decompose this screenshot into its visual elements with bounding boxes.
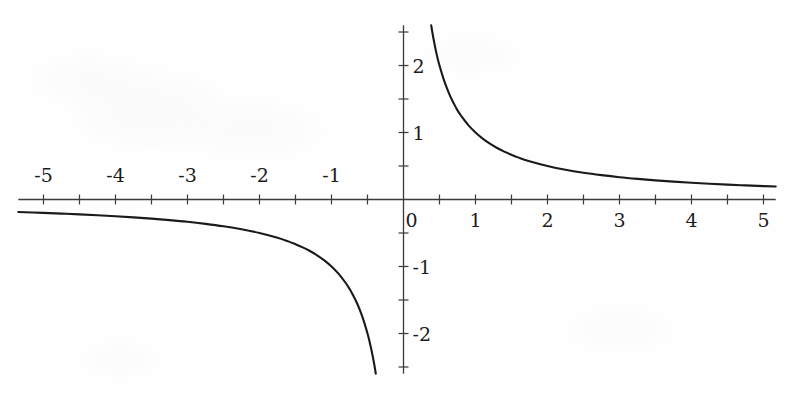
curve-left-branch bbox=[18, 212, 375, 374]
x-tick-label-1: 1 bbox=[469, 209, 481, 231]
y-tick-label-1: 1 bbox=[413, 122, 425, 144]
x-tick-label-neg4: -4 bbox=[106, 164, 125, 186]
plot-canvas bbox=[0, 0, 791, 404]
x-tick-label-5: 5 bbox=[757, 209, 769, 231]
x-tick-label-2: 2 bbox=[541, 209, 553, 231]
y-tick-label-neg1: -1 bbox=[413, 256, 432, 278]
x-tick-label-neg3: -3 bbox=[178, 164, 197, 186]
curve-right-branch bbox=[431, 25, 776, 186]
x-tick-label-0: 0 bbox=[405, 209, 417, 231]
x-tick-label-neg2: -2 bbox=[250, 164, 269, 186]
y-tick-label-2: 2 bbox=[413, 55, 425, 77]
hyperbola-figure: -5-4-3-2-101234521-1-2 bbox=[0, 0, 791, 404]
axes-group bbox=[18, 25, 775, 373]
x-tick-label-neg1: -1 bbox=[322, 164, 341, 186]
x-tick-label-neg5: -5 bbox=[34, 164, 53, 186]
x-tick-label-4: 4 bbox=[685, 209, 697, 231]
x-tick-label-3: 3 bbox=[613, 209, 625, 231]
y-tick-label-neg2: -2 bbox=[413, 323, 432, 345]
